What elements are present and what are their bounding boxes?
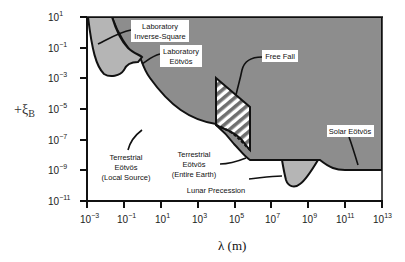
svg-text:1011: 1011 <box>336 212 354 225</box>
svg-text:Eötvös: Eötvös <box>170 57 193 66</box>
exclusion-plot: 101 10−1 10−3 10−5 10−7 10−9 10−11 10−3 … <box>0 0 405 262</box>
svg-text:107: 107 <box>265 212 280 225</box>
svg-text:10−1: 10−1 <box>48 41 67 54</box>
x-ticks <box>87 201 382 208</box>
annotation-lab-inverse-square: Laboratory Inverse-Square <box>131 20 189 42</box>
y-axis-label: +ξB <box>14 102 35 119</box>
svg-text:10−5: 10−5 <box>48 102 67 115</box>
y-tick-labels: 101 10−1 10−3 10−5 10−7 10−9 10−11 <box>48 10 71 207</box>
svg-text:Solar Eötvös: Solar Eötvös <box>329 127 372 136</box>
svg-text:(Entire Earth): (Entire Earth) <box>172 170 217 179</box>
svg-text:10−3: 10−3 <box>80 212 99 225</box>
svg-text:10−9: 10−9 <box>48 163 67 176</box>
svg-text:Inverse-Square: Inverse-Square <box>134 32 185 41</box>
x-axis-label: λ (m) <box>218 238 246 253</box>
svg-text:10−7: 10−7 <box>48 133 67 146</box>
svg-text:10−11: 10−11 <box>48 194 71 207</box>
annotation-lab-eotvos: Laboratory Eötvös <box>160 45 202 67</box>
svg-text:Terrestrial: Terrestrial <box>110 153 143 162</box>
svg-text:10−3: 10−3 <box>48 71 67 84</box>
annotation-lunar-precession: Lunar Precession <box>187 186 245 195</box>
svg-text:109: 109 <box>302 212 317 225</box>
svg-text:105: 105 <box>229 212 244 225</box>
annotation-free-fall: Free Fall <box>262 50 298 62</box>
svg-text:Eötvös: Eötvös <box>115 163 138 172</box>
svg-text:Eötvös: Eötvös <box>183 160 206 169</box>
svg-text:103: 103 <box>192 212 207 225</box>
annotation-solar-eotvos: Solar Eötvös <box>327 125 374 137</box>
lunar-precession-region <box>282 160 318 187</box>
svg-text:Terrestrial: Terrestrial <box>178 150 211 159</box>
svg-text:1013: 1013 <box>373 212 392 225</box>
annotation-terrestrial-earth: Terrestrial Eötvös (Entire Earth) <box>172 150 217 179</box>
svg-text:Laboratory: Laboratory <box>142 22 178 31</box>
svg-text:101: 101 <box>48 10 63 23</box>
svg-text:Laboratory: Laboratory <box>163 47 199 56</box>
annotation-terrestrial-local: Terrestrial Eötvös (Local Source) <box>102 153 151 182</box>
svg-text:Lunar Precession: Lunar Precession <box>187 186 245 195</box>
svg-text:(Local Source): (Local Source) <box>102 173 151 182</box>
svg-text:Free Fall: Free Fall <box>265 52 295 61</box>
svg-text:10−1: 10−1 <box>117 212 136 225</box>
svg-text:101: 101 <box>155 212 170 225</box>
x-tick-labels: 10−3 10−1 101 103 105 107 109 1011 1013 <box>80 212 392 225</box>
y-ticks <box>80 17 87 201</box>
